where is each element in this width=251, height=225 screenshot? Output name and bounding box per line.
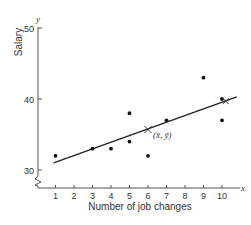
x-axis — [38, 185, 243, 191]
data-point — [202, 76, 206, 80]
data-point — [128, 111, 132, 115]
scatter-chart: Salary y 304050 x 12345678910 Number of … — [0, 0, 251, 225]
y-tick-label: 50 — [24, 24, 34, 34]
y-tick-label: 40 — [24, 95, 34, 105]
x-axis-letter: x — [240, 183, 245, 193]
x-tick-label: 6 — [145, 191, 150, 201]
x-axis-title: Number of job changes — [88, 201, 191, 212]
x-tick-label: 3 — [90, 191, 95, 201]
x-tick-label: 1 — [53, 191, 58, 201]
data-point — [54, 154, 58, 158]
regression-line — [54, 97, 237, 163]
data-point — [91, 147, 95, 151]
x-ticks: 12345678910 — [53, 185, 227, 201]
x-tick-label: 5 — [127, 191, 132, 201]
data-point — [109, 147, 113, 151]
x-tick-label: 10 — [217, 191, 227, 201]
y-axis — [35, 27, 41, 188]
x-tick-label: 2 — [71, 191, 76, 201]
data-point — [146, 154, 150, 158]
data-point — [220, 118, 224, 122]
mean-point-label: (x̄, ȳ) — [153, 130, 171, 140]
x-tick-label: 7 — [164, 191, 169, 201]
x-tick-label: 4 — [108, 191, 113, 201]
data-points — [54, 76, 224, 158]
y-axis-letter: y — [35, 14, 40, 24]
y-ticks: 304050 — [24, 24, 42, 176]
data-point — [128, 140, 132, 144]
x-tick-label: 9 — [201, 191, 206, 201]
x-tick-label: 8 — [182, 191, 187, 201]
data-point — [165, 118, 169, 122]
y-tick-label: 30 — [24, 166, 34, 176]
y-axis-title: Salary — [13, 28, 24, 56]
